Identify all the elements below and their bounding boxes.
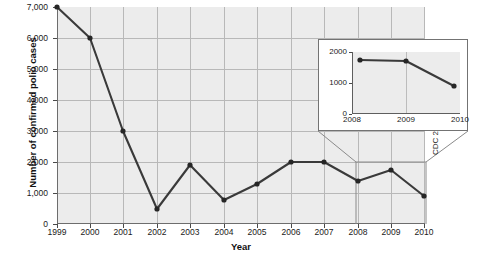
y-tick-mark-6000 bbox=[53, 38, 57, 39]
inset-y-tick-mark-2000 bbox=[349, 52, 352, 53]
inset-y-tick-label-2000: 2000 bbox=[317, 48, 347, 56]
y-tick-mark-3000 bbox=[53, 131, 57, 132]
y-tick-mark-2000 bbox=[53, 162, 57, 163]
inset-x-tick-label-2008: 2008 bbox=[332, 116, 372, 124]
y-tick-mark-5000 bbox=[53, 69, 57, 70]
inset-y-tick-label-1000: 1000 bbox=[317, 79, 347, 87]
inset-x-tick-label-2009: 2009 bbox=[386, 116, 426, 124]
y-tick-mark-7000 bbox=[53, 7, 57, 8]
x-axis-title: Year bbox=[57, 241, 425, 252]
y-axis-title: Number of confirmed polio cases bbox=[27, 18, 38, 208]
inset-x-tick-label-2010: 2010 bbox=[440, 116, 480, 124]
inset-axis-frame bbox=[352, 52, 460, 114]
y-tick-mark-4000 bbox=[53, 100, 57, 101]
chart-canvas: 7,000 6,000 5,000 4,000 3,000 2,000 1,00… bbox=[0, 0, 480, 266]
y-tick-label-7000: 7,000 bbox=[12, 3, 48, 11]
y-tick-mark-1000 bbox=[53, 193, 57, 194]
inset-y-tick-mark-1000 bbox=[349, 83, 352, 84]
y-tick-label-0: 0 bbox=[12, 220, 48, 228]
x-tick-label-2010: 2010 bbox=[402, 228, 446, 237]
